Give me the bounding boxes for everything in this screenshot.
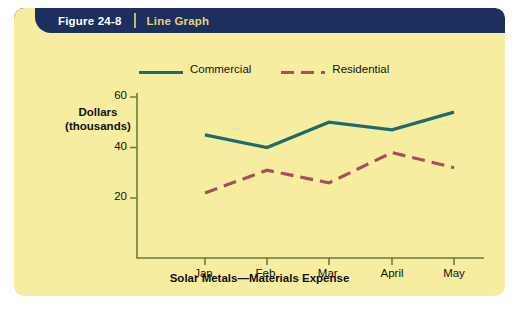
series-line-residential	[205, 153, 454, 193]
figure-card: Figure 24-8 Line Graph Commercial Reside…	[14, 8, 505, 296]
series-line-commercial	[205, 112, 454, 147]
chart-canvas	[14, 8, 505, 296]
chart-plot-area: Dollars (thousands) 20 40 60 Jan. Feb. M…	[14, 8, 505, 296]
x-axis-title: Solar Metals—Materials Expense	[14, 272, 505, 284]
